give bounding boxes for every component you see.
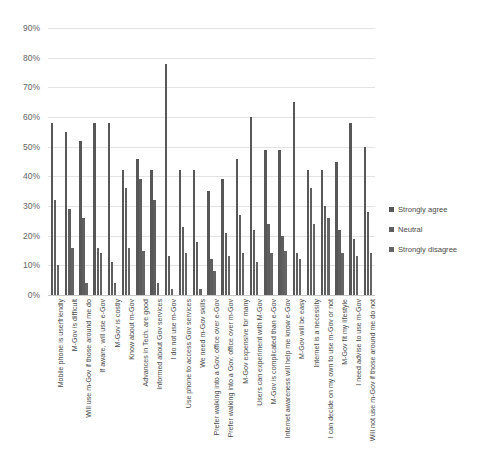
legend-swatch-icon (389, 247, 394, 252)
bar (142, 251, 144, 296)
bar-group (247, 28, 261, 295)
bar-group (204, 28, 218, 295)
bar (150, 170, 152, 295)
bar (364, 147, 366, 295)
legend-label: Strongly disagree (398, 245, 457, 254)
bar-group (261, 28, 275, 295)
bar (168, 256, 170, 295)
bar (139, 179, 141, 295)
bar-group (162, 28, 176, 295)
bar-group (219, 28, 233, 295)
bar-group (48, 28, 62, 295)
y-axis-tick-label: 30% (23, 202, 40, 211)
bar (225, 233, 227, 295)
legend-item[interactable]: Strongly disagree (389, 245, 481, 254)
bar (335, 162, 337, 296)
bar (236, 159, 238, 295)
bar-group (62, 28, 76, 295)
bar-group (76, 28, 90, 295)
bar (296, 253, 298, 295)
bar (228, 256, 230, 295)
bar (324, 206, 326, 295)
bar (250, 117, 252, 295)
x-axis-category-label: Mobile phone is userfriendly (58, 299, 65, 387)
y-axis-tick-labels: 90%80%70%60%50%40%30%20%10%0% (0, 28, 44, 295)
x-axis-category-label: Informed about Gov services (157, 299, 164, 390)
bar (349, 123, 351, 295)
y-axis-tick-label: 90% (23, 24, 40, 33)
bar (111, 262, 113, 295)
bar (57, 265, 59, 295)
bar-group (176, 28, 190, 295)
bar (213, 271, 215, 295)
x-axis-category-label: Internet awareness will help me know e-G… (285, 299, 292, 438)
bar (51, 123, 53, 295)
chart-legend: Strongly agreeNeutralStrongly disagree (389, 205, 481, 265)
bar-group (105, 28, 119, 295)
bar (270, 253, 272, 295)
bar (93, 123, 95, 295)
bar (114, 283, 116, 295)
bar (182, 227, 184, 295)
x-axis-category-label: Advances in Tech. are good (143, 299, 150, 386)
x-axis-category-label: M-Gov will be easy (299, 299, 306, 359)
bar (253, 230, 255, 295)
x-axis-category-label: We need m-Gov skills (200, 299, 207, 368)
bar-series-container (48, 28, 375, 295)
x-axis-line (48, 295, 375, 296)
legend-item[interactable]: Neutral (389, 225, 481, 234)
bar (338, 230, 340, 295)
legend-item[interactable]: Strongly agree (389, 205, 481, 214)
y-axis-tick-label: 40% (23, 172, 40, 181)
bar (299, 259, 301, 295)
bar (79, 141, 81, 295)
y-axis-tick-label: 20% (23, 231, 40, 240)
bar-group (276, 28, 290, 295)
bar (179, 170, 181, 295)
x-axis-category-label: Will use m-Gov if those around me do (86, 299, 93, 418)
bar (185, 253, 187, 295)
bar (242, 253, 244, 295)
bar (356, 256, 358, 295)
x-axis-category-label: I need advise to use m-Gov (356, 299, 363, 386)
bar (310, 188, 312, 295)
plot-area (48, 28, 375, 295)
bar (313, 224, 315, 295)
bar-group (133, 28, 147, 295)
bar (165, 64, 167, 295)
bar (68, 209, 70, 295)
bar (65, 132, 67, 295)
x-axis-category-label: Prefer walking into a Gov. office over m… (228, 299, 235, 438)
bar (293, 102, 295, 295)
bar-group (361, 28, 375, 295)
bar-group (332, 28, 346, 295)
bar (321, 170, 323, 295)
legend-swatch-icon (389, 227, 394, 232)
x-axis-category-label: I can decide on my own to use m-Gov or n… (328, 299, 335, 438)
x-axis-category-label: Users can experiment with M-Gov (257, 299, 264, 406)
y-axis-tick-label: 50% (23, 142, 40, 151)
bar (85, 283, 87, 295)
bar (207, 191, 209, 295)
bar (278, 150, 280, 295)
bar (281, 236, 283, 295)
x-axis-category-label: Internet is a necessity (314, 299, 321, 368)
legend-label: Neutral (398, 225, 422, 234)
bar-group (91, 28, 105, 295)
x-axis-category-label: Will not use m-Gov if those around me do… (370, 299, 377, 441)
bar (196, 242, 198, 295)
bar (341, 253, 343, 295)
y-axis-tick-label: 70% (23, 83, 40, 92)
bar (125, 188, 127, 295)
bar (100, 253, 102, 295)
bar (193, 170, 195, 295)
bar (210, 259, 212, 295)
bar (136, 159, 138, 295)
bar (327, 218, 329, 295)
x-axis-category-label: M-Gov is costly (115, 299, 122, 347)
bar (284, 251, 286, 296)
y-axis-tick-label: 60% (23, 113, 40, 122)
bar-group (148, 28, 162, 295)
bar (97, 248, 99, 295)
bar (221, 179, 223, 295)
